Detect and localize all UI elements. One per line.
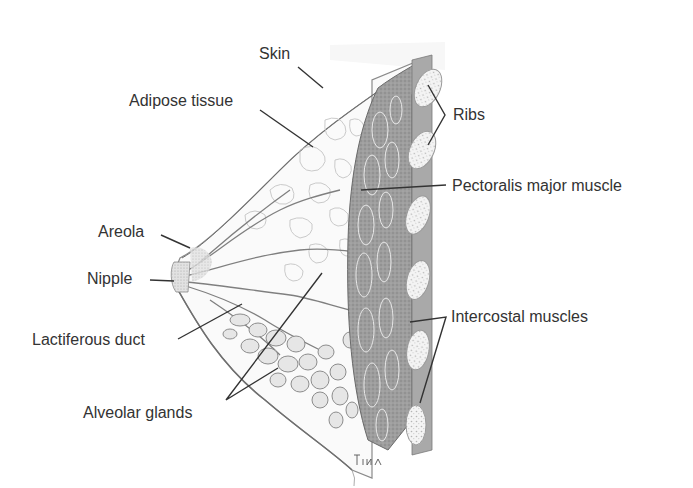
leader-skin bbox=[298, 67, 323, 88]
label-adipose-tissue: Adipose tissue bbox=[129, 92, 233, 110]
leader-nipple bbox=[150, 280, 174, 281]
label-skin: Skin bbox=[259, 45, 290, 63]
label-pectoralis-major-muscle: Pectoralis major muscle bbox=[452, 177, 622, 195]
leader-areola bbox=[161, 235, 190, 248]
label-areola: Areola bbox=[98, 223, 144, 241]
label-nipple: Nipple bbox=[87, 270, 132, 288]
label-lactiferous-duct: Lactiferous duct bbox=[32, 331, 145, 349]
label-alveolar-glands: Alveolar glands bbox=[83, 404, 192, 422]
label-ribs: Ribs bbox=[453, 106, 485, 124]
breast-anatomy-diagram: Skin Adipose tissue Ribs Pectoralis majo… bbox=[0, 0, 693, 488]
label-intercostal-muscles: Intercostal muscles bbox=[451, 308, 588, 326]
leader-adipose bbox=[260, 110, 313, 147]
